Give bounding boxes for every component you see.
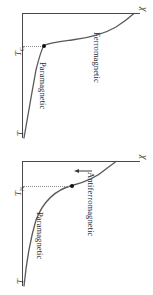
curie-tick-base: T (13, 51, 23, 56)
temperature-axis-line (22, 13, 23, 138)
neel-point-marker (70, 184, 74, 188)
chi-axis-label: χ (136, 155, 146, 159)
neel-tick-subscript: N (19, 187, 25, 191)
chi-axis-line (22, 13, 140, 14)
paramagnetic-region-label: Paramagnetic (39, 62, 48, 109)
ferromagnetic-chart-panel: χ T TC Paramagnetic Ferromagnetic (0, 0, 153, 147)
antiferromagnetic-region-label: Antiferromagnetic (87, 172, 96, 236)
temperature-axis-label: T (16, 279, 25, 284)
neel-temperature-tick-label: TN (14, 187, 25, 196)
temperature-axis-label: T (16, 131, 25, 136)
antiferromagnetic-chart-panel: χ T TN Paramagnetic Antiferromagnetic (0, 148, 153, 295)
chi-axis-label: χ (136, 7, 146, 11)
neel-temperature-guide-line (23, 186, 71, 187)
curie-temperature-tick-label: TC (14, 47, 25, 56)
curie-tick-subscript: C (19, 47, 25, 51)
curie-temperature-guide-line (23, 46, 43, 47)
paramagnetic-region-label: Paramagnetic (36, 212, 45, 259)
temperature-axis-line (22, 161, 23, 286)
chi-axis-line (22, 161, 140, 162)
curie-point-marker (42, 44, 46, 48)
neel-tick-base: T (13, 191, 23, 196)
ferromagnetic-region-label: Ferromagnetic (93, 32, 102, 83)
